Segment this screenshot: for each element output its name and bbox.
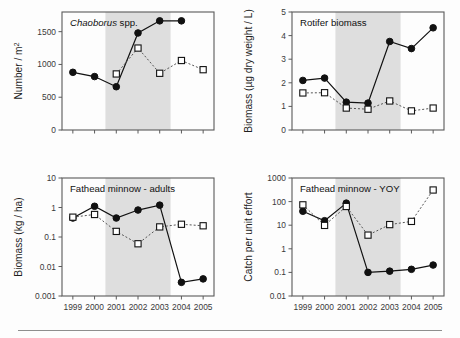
x-tick-label: 2005 [194,302,213,312]
y-axis-title: Catch per unit effort [243,192,254,281]
data-point-filled-circle [135,30,142,37]
y-tick-label: 100 [272,197,286,207]
y-tick-label: 0 [281,125,286,135]
x-tick-label: 1999 [64,302,83,312]
data-point-filled-circle [365,269,372,276]
data-point-filled-circle [200,276,207,283]
data-point-open-square [365,232,371,238]
data-point-open-square [135,45,141,51]
data-point-filled-circle [386,268,393,275]
data-point-filled-circle [113,215,120,222]
data-point-open-square [113,71,119,77]
panel-chaoborus: 050010001500Number / m2Chaoborus spp. [0,0,232,170]
x-tick-label: 2005 [424,302,443,312]
data-point-filled-circle [91,203,98,210]
data-point-open-square [157,70,163,76]
y-tick-label: 3 [281,54,286,64]
data-point-open-square [135,241,141,247]
figure-bottom-rule [18,330,442,331]
x-tick-label: 2004 [172,302,191,312]
data-point-filled-circle [70,69,77,76]
data-point-open-square [321,90,327,96]
data-point-open-square [300,202,306,208]
y-tick-label: 0.1 [44,232,56,242]
data-point-filled-circle [430,25,437,32]
data-point-open-square [178,57,184,63]
data-point-filled-circle [156,202,163,209]
fathead-adults-plot-area: 0.0010.010.11101999200020012002200320042… [13,173,214,312]
x-tick-label: 2001 [107,302,126,312]
data-point-open-square [343,203,349,209]
data-point-open-square [70,214,76,220]
y-tick-label: 1 [51,203,56,213]
data-point-open-square [178,221,184,227]
panel-fathead-yoy-svg: 0.010.1110100100019992000200120022003200… [230,166,460,331]
y-tick-label: 1 [281,244,286,254]
x-tick-label: 2002 [129,302,148,312]
panel-rotifer: 012345Biomass (µg dry weight / L)Rotifer… [230,0,460,170]
figure-canvas: 050010001500Number / m2Chaoborus spp. 01… [0,0,460,338]
y-tick-label: 0.01 [270,291,287,301]
data-point-open-square [430,105,436,111]
data-point-open-square [113,228,119,234]
x-tick-label: 2002 [359,302,378,312]
data-point-open-square [200,223,206,229]
y-tick-label: 5 [281,7,286,17]
panel-fathead-adults: 0.0010.010.11101999200020012002200320042… [0,166,232,331]
data-point-open-square [91,211,97,217]
y-tick-label: 10 [277,220,287,230]
data-point-open-square [321,222,327,228]
data-point-open-square [200,67,206,73]
data-point-filled-circle [91,73,98,80]
y-axis-title: Number / m2 [12,42,25,99]
y-tick-label: 0.01 [40,262,57,272]
y-axis-title: Biomass (kg / ha) [13,197,24,276]
y-tick-label: 1500 [37,27,56,37]
data-point-filled-circle [113,83,120,90]
data-point-filled-circle [300,77,307,84]
shaded-treatment-band [105,178,170,296]
x-tick-label: 2003 [380,302,399,312]
x-tick-label: 2004 [402,302,421,312]
y-tick-label: 500 [42,92,56,102]
data-point-filled-circle [408,45,415,52]
data-point-filled-circle [156,18,163,25]
data-point-open-square [408,108,414,114]
y-tick-label: 1000 [37,59,56,69]
data-point-filled-circle [386,38,393,45]
y-tick-label: 4 [281,31,286,41]
data-point-open-square [157,224,163,230]
data-point-filled-circle [430,262,437,269]
x-tick-label: 2000 [315,302,334,312]
panel-fathead-adults-svg: 0.0010.010.11101999200020012002200320042… [0,166,232,331]
x-tick-label: 2001 [337,302,356,312]
panel-rotifer-svg: 012345Biomass (µg dry weight / L)Rotifer… [230,0,460,170]
data-point-open-square [365,106,371,112]
x-tick-label: 1999 [294,302,313,312]
data-point-filled-circle [300,208,307,215]
y-tick-label: 0 [51,125,56,135]
fathead-yoy-plot-area: 0.010.1110100100019992000200120022003200… [243,173,444,312]
y-tick-label: 1 [281,101,286,111]
data-point-filled-circle [178,279,185,286]
panel-title: Fathead minnow - adults [70,183,175,194]
y-tick-label: 2 [281,78,286,88]
y-tick-label: 0.001 [35,291,56,301]
data-point-open-square [300,90,306,96]
panel-chaoborus-svg: 050010001500Number / m2Chaoborus spp. [0,0,232,170]
x-tick-label: 2003 [150,302,169,312]
panel-title: Rotifer biomass [300,17,367,28]
data-point-open-square [343,105,349,111]
data-point-filled-circle [135,207,142,214]
x-tick-label: 2000 [85,302,104,312]
panel-fathead-yoy: 0.010.1110100100019992000200120022003200… [230,166,460,331]
data-point-filled-circle [365,100,372,107]
rotifer-plot-area: 012345Biomass (µg dry weight / L)Rotifer… [243,7,444,135]
data-point-open-square [387,98,393,104]
y-tick-label: 1000 [267,173,286,183]
data-point-open-square [408,218,414,224]
y-tick-label: 0.1 [274,267,286,277]
chaoborus-plot-area: 050010001500Number / m2Chaoborus spp. [12,12,215,135]
data-point-filled-circle [321,75,328,82]
panel-title: Fathead minnow - YOY [300,183,400,194]
